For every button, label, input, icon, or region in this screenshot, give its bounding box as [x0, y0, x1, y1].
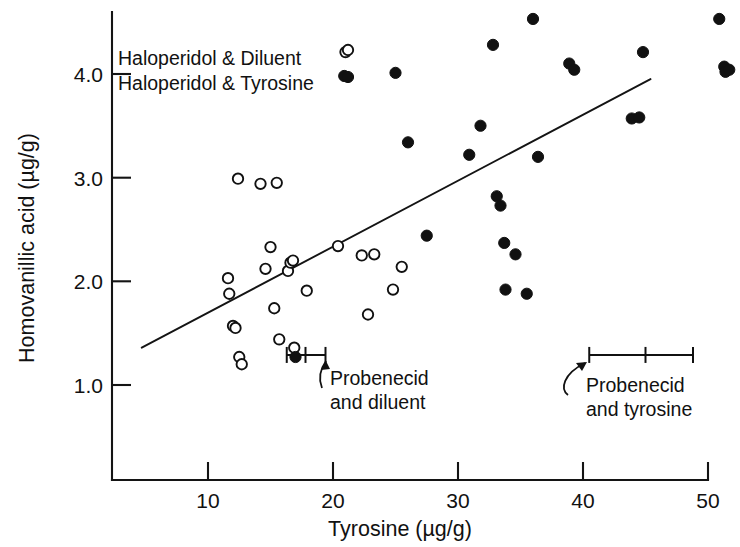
x-tick-label-40: 40 — [571, 489, 594, 512]
regression-line — [142, 79, 651, 348]
data-point-filled-circle — [521, 288, 532, 299]
legend-marker-open-circle — [343, 45, 353, 55]
data-point-filled-circle — [499, 237, 510, 248]
data-point-filled-circle — [402, 137, 413, 148]
x-axis: 10 20 30 40 50 Tyrosine (µg/g) — [112, 462, 720, 541]
legend-label-0: Haloperidol & Diluent — [118, 47, 302, 69]
x-tick-label-20: 20 — [321, 489, 344, 512]
legend-marker-filled-circle — [342, 71, 353, 82]
data-point-open-circle — [302, 285, 312, 295]
data-point-filled-circle — [421, 230, 432, 241]
data-point-open-circle — [288, 255, 298, 265]
data-point-filled-circle — [527, 13, 538, 24]
x-axis-title: Tyrosine (µg/g) — [328, 517, 472, 541]
data-point-filled-circle — [532, 151, 543, 162]
data-point-open-circle — [363, 309, 373, 319]
annotation-diluent-line2: and diluent — [330, 391, 426, 413]
error-bars — [287, 347, 693, 363]
x-tick-label-30: 30 — [446, 489, 469, 512]
y-tick-label-3: 3.0 — [74, 167, 103, 190]
annotation-tyrosine-line1: Probenecid — [586, 374, 685, 396]
data-point-filled-circle — [475, 120, 486, 131]
scatter-plot-figure: 4.0 3.0 2.0 1.0 Homovanillic acid (µg/g)… — [0, 0, 740, 547]
data-point-open-circle — [233, 173, 243, 183]
x-tick-label-50: 50 — [696, 489, 719, 512]
regression-line-segment — [142, 79, 651, 348]
data-point-open-circle — [265, 242, 275, 252]
data-point-open-circle — [333, 241, 343, 251]
data-point-open-circle — [369, 249, 379, 259]
data-point-filled-circle — [390, 67, 401, 78]
data-point-open-circle — [269, 303, 279, 313]
legend: Haloperidol & Diluent Haloperidol & Tyro… — [118, 45, 354, 94]
annotation-probenecid-diluent: Probenecid and diluent — [320, 361, 429, 413]
data-point-filled-circle — [724, 64, 735, 75]
data-point-open-circle — [255, 179, 265, 189]
y-tick-label-2: 2.0 — [74, 270, 103, 293]
annotation-diluent-line1: Probenecid — [330, 367, 429, 389]
data-point-filled-circle — [487, 39, 498, 50]
series-haloperidol-tyrosine-points — [290, 13, 735, 362]
annotation-tyrosine-line2: and tyrosine — [586, 398, 692, 420]
data-point-open-circle — [237, 359, 247, 369]
data-point-open-circle — [397, 262, 407, 272]
data-point-open-circle — [357, 250, 367, 260]
data-point-filled-circle — [634, 112, 645, 123]
data-point-open-circle — [272, 178, 282, 188]
data-point-open-circle — [223, 273, 233, 283]
data-point-open-circle — [274, 334, 284, 344]
data-point-filled-circle — [290, 351, 301, 362]
data-point-filled-circle — [464, 149, 475, 160]
data-point-open-circle — [388, 284, 398, 294]
data-point-open-circle — [230, 323, 240, 333]
data-point-filled-circle — [495, 200, 506, 211]
data-point-filled-circle — [500, 284, 511, 295]
data-point-open-circle — [224, 289, 234, 299]
y-tick-label-4: 4.0 — [74, 63, 103, 86]
data-point-filled-circle — [714, 13, 725, 24]
data-point-filled-circle — [637, 47, 648, 58]
annotation-probenecid-tyrosine: Probenecid and tyrosine — [564, 362, 692, 420]
y-tick-label-1: 1.0 — [74, 374, 103, 397]
legend-label-1: Haloperidol & Tyrosine — [118, 72, 314, 94]
x-tick-label-10: 10 — [196, 489, 219, 512]
data-point-open-circle — [260, 264, 270, 274]
plot-canvas: 4.0 3.0 2.0 1.0 Homovanillic acid (µg/g)… — [0, 0, 740, 547]
data-point-filled-circle — [510, 249, 521, 260]
y-axis-title: Homovanillic acid (µg/g) — [15, 133, 39, 363]
data-point-filled-circle — [569, 64, 580, 75]
y-axis: 4.0 3.0 2.0 1.0 Homovanillic acid (µg/g) — [15, 12, 131, 480]
series-haloperidol-diluent-points — [223, 47, 407, 370]
